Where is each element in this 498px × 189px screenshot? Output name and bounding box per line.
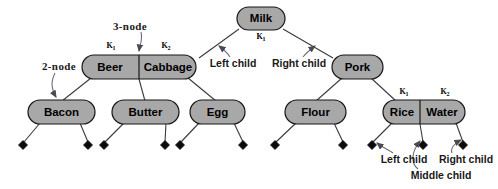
node-pork[interactable]: Pork [332,55,383,79]
node-butter-key-1: Butter [129,106,163,118]
leader-leaf-left-child [377,143,393,153]
edge-beer-to-egg [188,78,216,101]
edge-butter-leaf-right [165,123,166,142]
key-label-pork-k2: K2 [440,87,449,97]
key-label-pork-k1: K1 [399,87,408,97]
edge-pork-to-flour [316,78,342,101]
leaf-node [271,141,280,150]
node-rice-water-key-1: Rice [390,106,414,118]
node-egg-key-1: Egg [207,106,229,118]
annotation-right-child: Right child [272,57,326,69]
edge-pork-to-rice [371,78,396,101]
node-bacon-key-1: Bacon [44,106,79,118]
edge-flour-leaf-right [334,123,343,142]
annotation-leaf-left-child: Left child [381,153,428,165]
edge-milk-to-beer [199,29,239,58]
node-bacon[interactable]: Bacon [28,100,95,124]
annotation-three-node: 3-node [113,20,147,32]
key-label-beer-k2: K2 [161,41,170,51]
edge-bacon-leaf-left [24,123,40,142]
annotation-leaf-middle-child: Middle child [411,169,472,181]
leaf-node [368,141,377,150]
leaf-nodes [19,141,468,150]
leaf-node [84,141,93,150]
tree-diagram: Milk Beer Cabbage Pork Bacon Butter Egg [0,0,498,189]
edge-beer-to-bacon [62,78,91,101]
node-rice-water[interactable]: Rice Water [383,100,465,124]
edge-beer-to-butter [139,79,145,101]
tree-edges [24,29,463,142]
edge-rice-leaf-right [456,123,463,142]
edge-bacon-leaf-right [80,123,88,142]
edge-rice-leaf-middle [420,124,423,142]
edge-flour-leaf-left [276,123,296,142]
leader-two-node [52,73,56,97]
annotation-left-child: Left child [210,57,257,69]
leaf-node [239,141,248,150]
annotation-two-node: 2-node [42,60,76,72]
node-pork-key-1: Pork [345,61,371,73]
node-flour-key-1: Flour [301,106,330,118]
key-label-milk-k1: K1 [256,32,265,42]
node-egg[interactable]: Egg [190,100,245,124]
node-milk[interactable]: Milk [237,7,285,30]
edge-egg-leaf-left [181,123,199,142]
edge-rice-leaf-left [373,123,392,142]
leaf-node [339,141,348,150]
node-beer-cabbage-key-2: Cabbage [144,61,193,73]
leader-three-node [139,32,142,51]
node-beer-cabbage[interactable]: Beer Cabbage [82,55,196,79]
node-flour[interactable]: Flour [285,100,346,124]
node-milk-key-1: Milk [250,12,273,24]
leader-right-child [303,46,315,57]
leader-left-child [219,46,230,57]
node-beer-cabbage-key-1: Beer [97,61,123,73]
edge-butter-leaf-left [105,123,124,142]
node-butter[interactable]: Butter [112,100,179,124]
leaf-node [19,141,28,150]
leaf-node [100,141,109,150]
node-rice-water-key-2: Water [426,106,458,118]
leaf-node [459,141,468,150]
leaf-node [161,141,170,150]
diagram-canvas: Milk Beer Cabbage Pork Bacon Butter Egg [0,0,498,189]
edge-milk-to-pork [283,29,333,58]
key-label-beer-k1: K1 [106,41,115,51]
annotation-leaf-right-child: Right child [439,153,493,165]
leaf-node [176,141,185,150]
edge-egg-leaf-right [234,123,243,142]
